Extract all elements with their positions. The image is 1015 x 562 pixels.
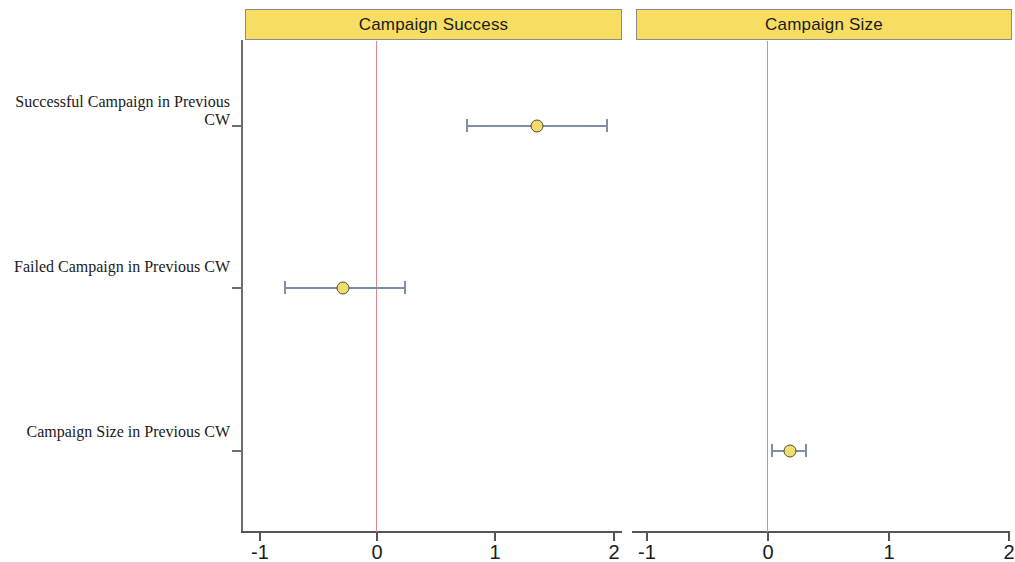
x-tick-label-neg1-panel-2: -1	[638, 541, 656, 562]
panel-header-campaign-size: Campaign Size	[636, 9, 1012, 40]
errorbar-cap-high-row-2-panel-1	[404, 281, 406, 294]
panel-title-campaign-size: Campaign Size	[765, 15, 883, 35]
estimate-marker-row-2-panel-1	[337, 282, 350, 295]
x-tick-neg1-panel-1	[259, 532, 261, 541]
y-tick-row-2-panel-1	[232, 287, 241, 289]
x-tick-label-0-panel-2: 0	[762, 541, 773, 562]
panel-header-campaign-success: Campaign Success	[245, 9, 622, 40]
x-tick-1-panel-2	[888, 532, 890, 541]
row-label-campaign-size: Campaign Size in Previous CW	[0, 423, 236, 441]
x-axis-line-panel-1	[241, 531, 622, 533]
x-tick-0-panel-1	[376, 532, 378, 541]
x-tick-1-panel-1	[494, 532, 496, 541]
y-tick-row-1-panel-1	[232, 125, 241, 127]
x-tick-label-neg1-panel-1: -1	[251, 541, 269, 562]
reference-line-zero-panel-2	[767, 41, 768, 532]
panel-campaign-success: Campaign Success -1 0 1 2	[241, 0, 622, 562]
x-tick-0-panel-2	[767, 532, 769, 541]
row-label-failed-campaign: Failed Campaign in Previous CW	[0, 258, 236, 276]
x-tick-neg1-panel-2	[646, 532, 648, 541]
x-tick-2-panel-2	[1008, 532, 1010, 541]
errorbar-cap-low-row-3-panel-2	[771, 444, 773, 457]
x-tick-label-2-panel-1: 2	[608, 541, 619, 562]
errorbar-cap-high-row-3-panel-2	[805, 444, 807, 457]
x-tick-label-1-panel-2: 1	[883, 541, 894, 562]
row-label-column: Successful Campaign in Previous CW Faile…	[0, 0, 236, 562]
y-tick-row-3-panel-1	[232, 450, 241, 452]
panel-title-campaign-success: Campaign Success	[359, 15, 509, 35]
x-axis-line-panel-2	[632, 531, 1010, 533]
y-axis-line-panel-1	[241, 40, 243, 532]
estimate-marker-row-3-panel-2	[784, 445, 797, 458]
row-label-successful-campaign: Successful Campaign in Previous CW	[0, 93, 236, 129]
estimate-marker-row-1-panel-1	[531, 120, 544, 133]
x-tick-label-0-panel-1: 0	[371, 541, 382, 562]
errorbar-cap-low-row-2-panel-1	[284, 281, 286, 294]
x-tick-2-panel-1	[613, 532, 615, 541]
x-tick-label-1-panel-1: 1	[489, 541, 500, 562]
panel-campaign-size: Campaign Size -1 0 1 2	[632, 0, 1010, 562]
errorbar-cap-high-row-1-panel-1	[606, 119, 608, 132]
errorbar-cap-low-row-1-panel-1	[466, 119, 468, 132]
x-tick-label-2-panel-2: 2	[1003, 541, 1014, 562]
